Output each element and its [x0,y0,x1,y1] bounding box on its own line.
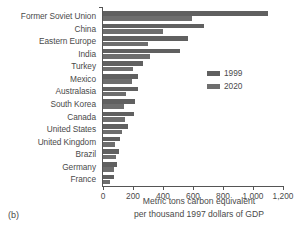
bar-1999 [103,61,143,66]
x-tick [193,187,194,190]
category-axis-labels: Former Soviet UnionChinaEastern EuropeIn… [0,10,99,186]
category-label: Eastern Europe [0,35,99,48]
bar-group [103,161,283,174]
bar-2020 [103,180,110,185]
bar-1999 [103,74,138,79]
category-label: South Korea [0,98,99,111]
bar-1999 [103,87,138,92]
bar-2020 [103,117,125,122]
category-label: France [0,173,99,186]
legend-swatch [207,84,220,89]
bar-group [103,111,283,124]
bar-1999 [103,99,135,104]
bar-2020 [103,104,124,109]
bar-1999 [103,175,114,180]
chart-legend: 19992020 [207,68,277,94]
panel-label: (b) [8,210,19,220]
category-label: Germany [0,161,99,174]
category-label: China [0,23,99,36]
bar-1999 [103,112,134,117]
category-label: Former Soviet Union [0,10,99,23]
bar-1999 [103,11,268,16]
category-label: India [0,48,99,61]
category-label: Mexico [0,73,99,86]
plot-area: 02004006008001,0001,200 [103,10,283,186]
x-tick [163,187,164,190]
bar-group [103,10,283,23]
category-label: Canada [0,111,99,124]
bar-1999 [103,124,128,129]
bar-2020 [103,155,116,160]
bar-1999 [103,24,204,29]
bar-1999 [103,137,120,142]
bar-2020 [103,130,122,135]
bar-1999 [103,36,188,41]
bar-group [103,136,283,149]
category-label: United States [0,123,99,136]
bar-1999 [103,162,117,167]
bar-group [103,23,283,36]
bar-group [103,123,283,136]
x-tick [223,187,224,190]
x-tick [133,187,134,190]
bar-group [103,148,283,161]
bar-2020 [103,16,192,21]
x-tick [103,187,104,190]
bar-2020 [103,67,133,72]
bar-group [103,173,283,186]
bar-1999 [103,149,119,154]
bar-2020 [103,42,148,47]
bar-group [103,48,283,61]
legend-label: 2020 [224,81,242,92]
legend-swatch [207,71,220,76]
x-tick [283,187,284,190]
category-label: Brazil [0,148,99,161]
x-axis-title: Metric tons carbon equivalent per thousa… [103,195,295,220]
carbon-intensity-bar-chart: Former Soviet UnionChinaEastern EuropeIn… [0,0,295,237]
bar-2020 [103,167,114,172]
legend-item: 1999 [207,68,277,79]
bar-1999 [103,49,180,54]
x-tick [253,187,254,190]
legend-item: 2020 [207,81,277,92]
category-label: Australasia [0,85,99,98]
category-label: United Kingdom [0,136,99,149]
bar-group [103,98,283,111]
legend-label: 1999 [224,68,242,79]
category-label: Turkey [0,60,99,73]
x-axis-title-line2: per thousand 1997 dollars of GDP [103,208,295,221]
bar-group [103,35,283,48]
bar-2020 [103,92,126,97]
x-axis-title-line1: Metric tons carbon equivalent [103,195,295,208]
bar-2020 [103,29,163,34]
bar-2020 [103,54,150,59]
bar-2020 [103,142,115,147]
bar-2020 [103,79,132,84]
